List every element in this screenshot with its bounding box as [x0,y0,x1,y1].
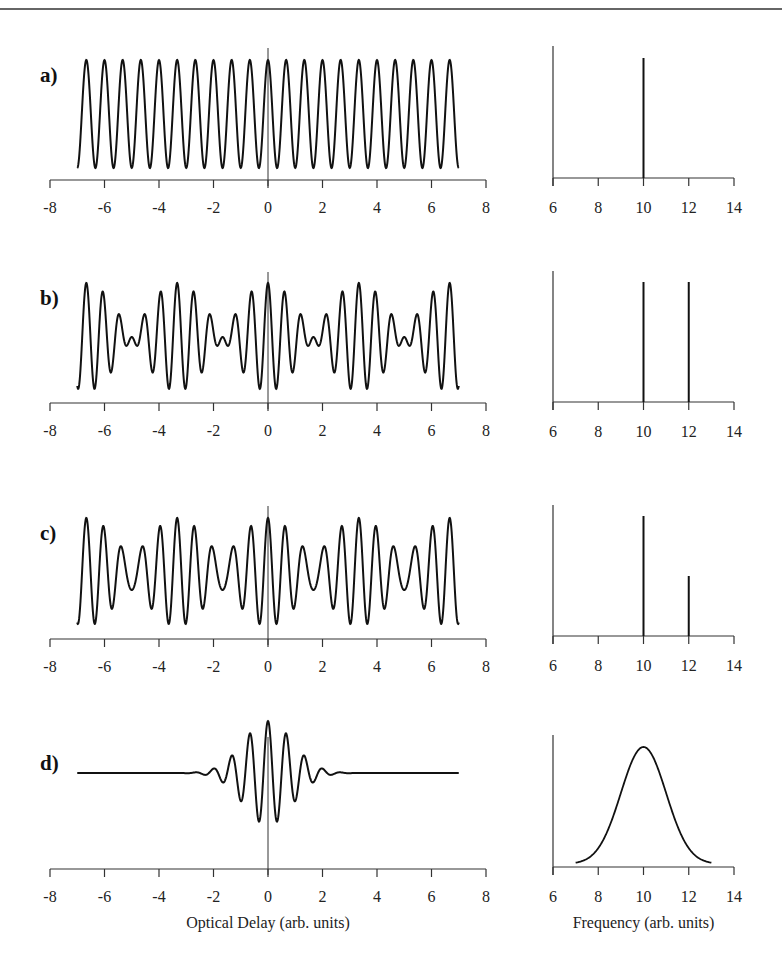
x-tick-label: 4 [373,888,381,905]
panel-row-b: b)-8-6-4-20246868101214 [40,271,742,440]
x-tick-label: 12 [681,199,697,216]
x-tick-label: 0 [264,422,272,439]
x-tick-label: 10 [636,657,652,674]
x-tick-label: 6 [428,658,436,675]
x-tick-label: 8 [594,199,602,216]
x-tick-label: -6 [98,658,111,675]
panel-label: c) [40,521,56,545]
x-tick-label: 8 [594,423,602,440]
x-tick-label: 0 [264,658,272,675]
panel-row-c: c)-8-6-4-20246868101214 [40,505,742,675]
spectrum-plot: 68101214 [549,735,742,905]
x-tick-label: 2 [319,422,327,439]
x-tick-label: 0 [264,199,272,216]
figure: a)-8-6-4-20246868101214b)-8-6-4-20246868… [0,0,782,980]
x-tick-label: 6 [549,657,557,674]
x-tick-label: -8 [43,658,56,675]
panel-row-d: d)-8-6-4-20246868101214Optical Delay (ar… [40,721,742,932]
x-tick-label: 12 [681,423,697,440]
spectrum-plot: 68101214 [549,505,742,674]
x-tick-label: 10 [636,423,652,440]
panel-row-a: a)-8-6-4-20246868101214 [40,46,742,216]
x-tick-label: 8 [482,199,490,216]
x-axis-title-frequency: Frequency (arb. units) [573,914,715,932]
x-tick-label: 8 [594,888,602,905]
x-tick-label: 0 [264,888,272,905]
x-tick-label: 8 [482,658,490,675]
x-tick-label: -4 [152,888,165,905]
x-tick-label: -8 [43,199,56,216]
x-tick-label: -8 [43,888,56,905]
x-tick-label: 14 [726,657,742,674]
x-tick-label: -4 [152,422,165,439]
x-tick-label: -8 [43,422,56,439]
x-axis-title-delay: Optical Delay (arb. units) [186,914,350,932]
interferogram-plot: -8-6-4-202468 [43,506,490,675]
x-tick-label: 12 [681,888,697,905]
x-tick-label: 4 [373,422,381,439]
x-tick-label: -4 [152,199,165,216]
plots: a)-8-6-4-20246868101214b)-8-6-4-20246868… [40,46,742,932]
gaussian-spectrum-curve [576,747,712,863]
spectrum-plot: 68101214 [549,46,742,216]
x-tick-label: 14 [726,423,742,440]
panel-label: d) [40,751,59,775]
x-tick-label: -2 [207,888,220,905]
x-tick-label: -2 [207,658,220,675]
x-tick-label: 6 [428,888,436,905]
interferogram-plot: -8-6-4-202468 [43,48,490,216]
x-tick-label: -2 [207,199,220,216]
x-tick-label: 14 [726,888,742,905]
panel-label: a) [40,63,58,87]
interferogram-plot: -8-6-4-202468 [43,721,490,905]
x-tick-label: -2 [207,422,220,439]
x-tick-label: 2 [319,658,327,675]
x-tick-label: -6 [98,422,111,439]
x-tick-label: 6 [549,199,557,216]
x-tick-label: 6 [549,423,557,440]
x-tick-label: 6 [428,199,436,216]
x-tick-label: 6 [549,888,557,905]
x-tick-label: 8 [482,422,490,439]
panel-label: b) [40,286,59,310]
x-tick-label: 6 [428,422,436,439]
x-tick-label: 14 [726,199,742,216]
x-tick-label: 8 [594,657,602,674]
x-tick-label: 4 [373,199,381,216]
interferogram-plot: -8-6-4-202468 [43,272,490,439]
x-tick-label: 2 [319,888,327,905]
x-tick-label: 4 [373,658,381,675]
x-tick-label: 2 [319,199,327,216]
spectrum-plot: 68101214 [549,271,742,440]
x-tick-label: 10 [636,888,652,905]
x-tick-label: -6 [98,199,111,216]
x-tick-label: -4 [152,658,165,675]
x-tick-label: -6 [98,888,111,905]
x-tick-label: 8 [482,888,490,905]
x-tick-label: 10 [636,199,652,216]
x-tick-label: 12 [681,657,697,674]
